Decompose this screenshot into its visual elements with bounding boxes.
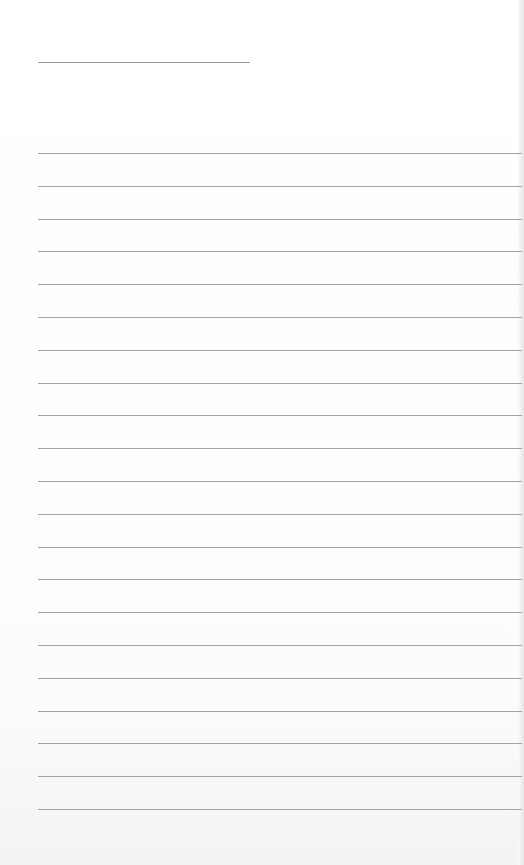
ruled-line xyxy=(38,809,522,810)
ruled-line xyxy=(38,448,522,449)
ruled-line xyxy=(38,317,522,318)
ruled-line xyxy=(38,219,522,220)
ruled-line xyxy=(38,383,522,384)
ruled-line xyxy=(38,776,522,777)
ruled-line xyxy=(38,284,522,285)
ruled-line xyxy=(38,514,522,515)
ruled-line xyxy=(38,186,522,187)
ruled-line xyxy=(38,678,522,679)
ruled-line xyxy=(38,711,522,712)
ruled-line xyxy=(38,153,522,154)
ruled-line xyxy=(38,350,522,351)
ruled-line xyxy=(38,547,522,548)
lined-paper-sheet xyxy=(0,0,524,865)
ruled-line xyxy=(38,481,522,482)
ruled-line xyxy=(38,645,522,646)
ruled-line xyxy=(38,415,522,416)
paper-edge-shadow xyxy=(518,0,524,865)
ruled-line xyxy=(38,612,522,613)
ruled-line xyxy=(38,579,522,580)
title-line xyxy=(38,62,250,63)
ruled-line xyxy=(38,743,522,744)
ruled-line xyxy=(38,251,522,252)
